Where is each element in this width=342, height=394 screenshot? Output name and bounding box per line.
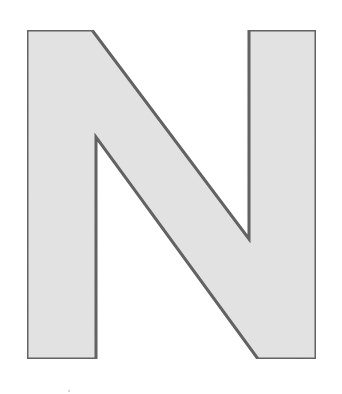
dust-speck [68,390,70,392]
letter-n-icon [0,0,342,394]
letter-n-shape [27,30,316,359]
letter-n-figure [0,0,342,394]
